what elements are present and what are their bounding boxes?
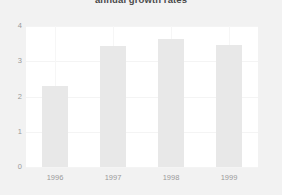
- y-axis-tick-label: 2: [2, 93, 22, 101]
- x-axis-tick-label: 1997: [93, 174, 133, 182]
- bar-chart-figure: annual growth rates 01234 19961997199819…: [0, 0, 282, 195]
- x-axis: 1996199719981999: [26, 174, 258, 186]
- bar-1997[interactable]: [100, 46, 126, 167]
- bar-1999[interactable]: [216, 45, 242, 167]
- bar-1998[interactable]: [158, 39, 184, 167]
- bar-1996[interactable]: [42, 86, 68, 167]
- y-axis-tick-label: 0: [2, 163, 22, 171]
- bars-layer: [26, 26, 258, 167]
- gridline-horizontal: [26, 167, 258, 168]
- y-axis: 01234: [0, 26, 22, 167]
- x-axis-tick-label: 1996: [35, 174, 75, 182]
- chart-title: annual growth rates: [0, 0, 282, 5]
- plot-area: [26, 26, 258, 167]
- x-axis-tick-label: 1998: [151, 174, 191, 182]
- y-axis-tick-label: 1: [2, 128, 22, 136]
- y-axis-tick-label: 4: [2, 22, 22, 30]
- y-axis-tick-label: 3: [2, 58, 22, 66]
- x-axis-tick-label: 1999: [209, 174, 249, 182]
